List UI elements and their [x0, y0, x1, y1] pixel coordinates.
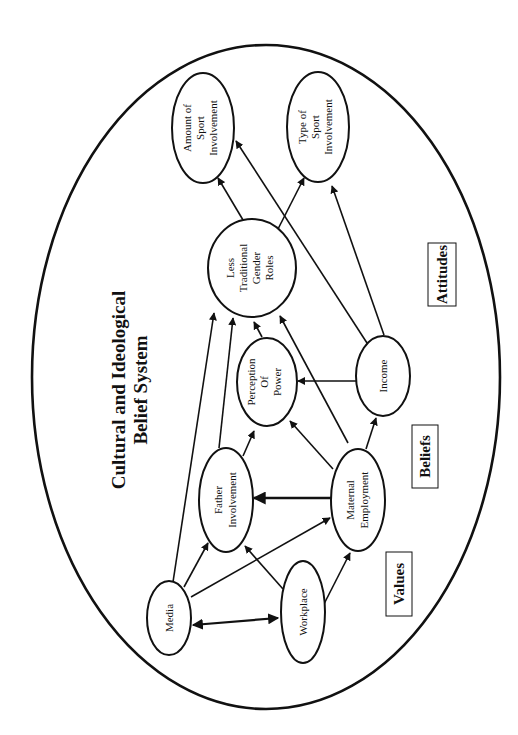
maternal-label-2: Employment [358, 472, 370, 529]
svg-text:Employment: Employment [358, 472, 370, 529]
edge-power-gender [254, 322, 262, 337]
svg-text:Belief System: Belief System [130, 335, 151, 444]
type-label-3: Involvement [322, 99, 334, 155]
type-label-2: Sport [309, 115, 321, 139]
svg-text:Less: Less [224, 258, 236, 278]
gender-label-3: Gender [250, 251, 262, 284]
svg-text:Gender: Gender [250, 251, 262, 284]
gender-label-1: Less [224, 258, 236, 278]
type-label-1: Type of [296, 110, 308, 144]
power-label-1: Perception [245, 358, 257, 406]
title-line-1: Cultural and Ideological [108, 291, 129, 489]
edge-media-workplace [193, 618, 278, 625]
income-label: Income [377, 359, 389, 392]
svg-text:Media: Media [163, 604, 175, 632]
svg-text:Workplace: Workplace [297, 588, 309, 635]
edge-maternal-power [290, 421, 333, 469]
svg-text:Sport: Sport [309, 115, 321, 139]
edge-maternal-income [366, 418, 376, 449]
svg-text:Amount of: Amount of [181, 104, 193, 152]
edge-workplace-father [245, 546, 283, 589]
edge-workplace-maternal [324, 553, 350, 604]
svg-text:Involvement: Involvement [322, 99, 334, 155]
svg-text:Cultural and Ideological: Cultural and Ideological [108, 291, 129, 489]
father-label-1: Father [212, 486, 224, 514]
nodes [147, 72, 410, 663]
power-label-3: Power [271, 368, 283, 396]
svg-text:Involvement: Involvement [226, 472, 238, 528]
svg-text:Beliefs: Beliefs [417, 435, 433, 478]
media-label: Media [163, 604, 175, 632]
gender-label-4: Roles [263, 255, 275, 280]
svg-text:Of: Of [258, 376, 270, 388]
edge-gender-amount [218, 178, 243, 220]
maternal-label-1: Maternal [344, 480, 356, 520]
svg-text:Involvement: Involvement [207, 100, 219, 156]
workplace-label: Workplace [297, 588, 309, 635]
edge-income-type [332, 186, 384, 335]
title-line-2: Belief System [130, 335, 151, 444]
svg-text:Type of: Type of [296, 110, 308, 144]
edge-father-gender [219, 318, 233, 448]
edge-media-father [184, 543, 208, 587]
svg-text:Income: Income [377, 359, 389, 392]
svg-text:Attitudes: Attitudes [434, 245, 450, 304]
attitudes-label: Attitudes [434, 245, 450, 304]
svg-text:Roles: Roles [263, 255, 275, 280]
svg-text:Father: Father [212, 486, 224, 514]
power-label-2: Of [258, 376, 270, 388]
gender-label-2: Traditional [237, 244, 249, 293]
edge-media-gender [173, 313, 214, 582]
svg-text:Sport: Sport [194, 116, 206, 140]
father-label-2: Involvement [226, 472, 238, 528]
svg-text:Traditional: Traditional [237, 244, 249, 293]
edge-gender-type [278, 178, 304, 229]
belief-system-diagram: Amount of Sport Involvement Type of Spor… [0, 0, 518, 735]
svg-text:Perception: Perception [245, 358, 257, 406]
svg-text:Maternal: Maternal [344, 480, 356, 520]
amount-label-3: Involvement [207, 100, 219, 156]
svg-text:Power: Power [271, 368, 283, 396]
svg-text:Values: Values [391, 563, 407, 605]
edge-father-power [243, 431, 254, 456]
beliefs-label: Beliefs [417, 435, 433, 478]
values-label: Values [391, 563, 407, 605]
amount-label-1: Amount of [181, 104, 193, 152]
amount-label-2: Sport [194, 116, 206, 140]
